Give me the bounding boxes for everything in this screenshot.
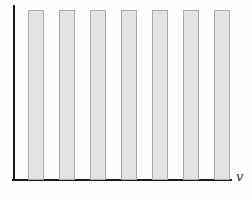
bar-5: [152, 10, 168, 180]
bar-1: [28, 10, 44, 180]
spectrum-bar-chart: v: [0, 0, 252, 200]
bar-7: [214, 10, 230, 180]
bar-2: [59, 10, 75, 180]
bars-container: [0, 0, 252, 200]
bar-4: [121, 10, 137, 180]
x-axis-label-nu: v: [236, 169, 243, 184]
bar-6: [183, 10, 199, 180]
bar-3: [90, 10, 106, 180]
